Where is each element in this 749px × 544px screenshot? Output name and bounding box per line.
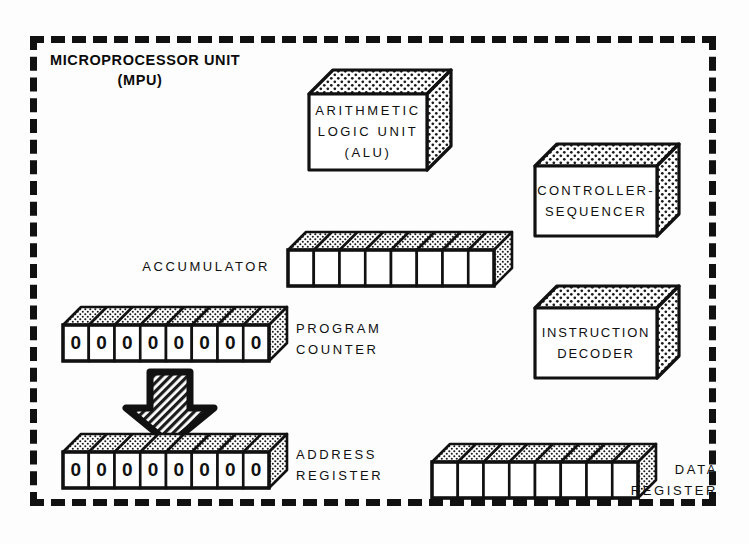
address-register-cell-value: 0	[71, 459, 82, 480]
data-register-caption-line1: DATA	[675, 462, 718, 477]
address-register-cell-value: 0	[96, 459, 107, 480]
program-counter-caption: PROGRAMCOUNTER	[296, 318, 381, 360]
controller-sequencer-front-face	[535, 166, 657, 236]
address-register-caption: ADDRESSREGISTER	[296, 444, 383, 486]
program-counter-register: 00000000	[59, 303, 289, 365]
address-register-cell-value: 0	[225, 459, 236, 480]
accumulator-cell	[443, 250, 469, 286]
address-register-cell-value: 0	[174, 459, 185, 480]
data-register-cell	[509, 462, 535, 498]
accumulator-cell	[340, 250, 366, 286]
accumulator-cell	[365, 250, 391, 286]
alu-front-face	[309, 94, 427, 170]
mpu-block-diagram: MICROPROCESSOR UNIT(MPU) ARITHMETICLOGIC…	[0, 0, 749, 544]
address-register-caption-line1: ADDRESS	[296, 447, 377, 462]
program-counter-cell-value: 0	[199, 332, 210, 353]
data-register-caption-line2: REGISTER	[631, 483, 718, 498]
program-counter-caption-line1: PROGRAM	[296, 321, 381, 336]
accumulator-register	[284, 228, 514, 290]
data-register-cell	[535, 462, 561, 498]
program-counter-cell-value: 0	[71, 332, 82, 353]
instruction-decoder-front-face	[535, 308, 657, 378]
data-register-cell	[458, 462, 484, 498]
alu-block: ARITHMETICLOGIC UNIT(ALU)	[305, 66, 455, 174]
program-counter-cell-value: 0	[251, 332, 262, 353]
accumulator-cell	[288, 250, 314, 286]
accumulator-caption-line1: ACCUMULATOR	[142, 259, 270, 274]
address-register-cell-value: 0	[148, 459, 159, 480]
controller-sequencer-block: CONTROLLER-SEQUENCER	[531, 140, 683, 240]
address-register-caption-line2: REGISTER	[296, 468, 383, 483]
accumulator-cell	[468, 250, 494, 286]
address-register-cell-value: 0	[199, 459, 210, 480]
accumulator-cell	[391, 250, 417, 286]
data-register-cell	[432, 462, 458, 498]
program-counter-cell-value: 0	[122, 332, 133, 353]
accumulator-cell	[417, 250, 443, 286]
mpu-title: MICROPROCESSOR UNIT(MPU)	[50, 50, 240, 90]
data-register-caption: DATAREGISTER	[578, 459, 718, 501]
address-register-cell-value: 0	[122, 459, 133, 480]
program-counter-cell-value: 0	[148, 332, 159, 353]
program-counter-cell-value: 0	[225, 332, 236, 353]
accumulator-cell	[314, 250, 340, 286]
program-counter-cell-value: 0	[96, 332, 107, 353]
instruction-decoder-block: INSTRUCTIONDECODER	[531, 282, 683, 382]
instruction-decoder-top-face	[535, 286, 679, 308]
data-register-cell	[484, 462, 510, 498]
address-register: 00000000	[59, 430, 289, 492]
address-register-cell-value: 0	[251, 459, 262, 480]
accumulator-caption: ACCUMULATOR	[120, 256, 270, 277]
mpu-title-line1: MICROPROCESSOR UNIT	[50, 52, 240, 68]
controller-sequencer-top-face	[535, 144, 679, 166]
program-counter-cell-value: 0	[174, 332, 185, 353]
mpu-title-line2: (MPU)	[50, 70, 230, 90]
program-counter-caption-line2: COUNTER	[296, 342, 378, 357]
